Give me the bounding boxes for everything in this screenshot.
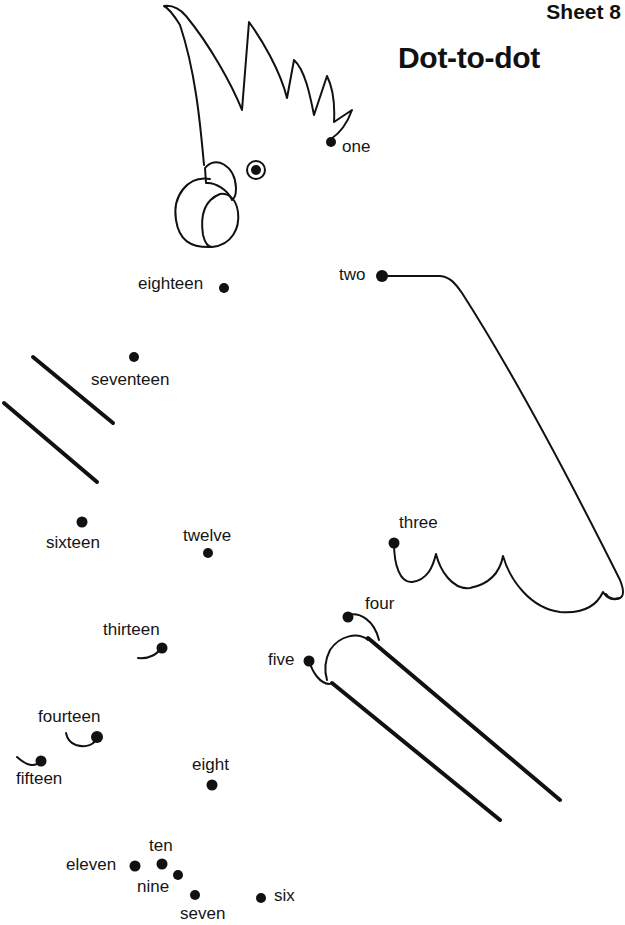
crest-outline xyxy=(164,6,352,165)
dot-12 xyxy=(203,548,213,558)
dot-label-five: five xyxy=(268,650,294,670)
tail-feather-2 xyxy=(332,683,500,820)
tail-feather-1 xyxy=(368,638,560,800)
dot-label-thirteen: thirteen xyxy=(103,620,160,640)
dot-15 xyxy=(36,756,47,767)
dot-9 xyxy=(173,870,183,880)
dot-label-fifteen: fifteen xyxy=(16,769,62,789)
wing-back xyxy=(384,276,623,599)
dot-10 xyxy=(157,859,168,870)
dot-7 xyxy=(190,890,200,900)
tail-cap-outer xyxy=(325,636,368,680)
dot-11 xyxy=(130,861,141,872)
wing-scallops xyxy=(394,543,620,612)
beak-lower xyxy=(175,179,238,248)
dot-label-six: six xyxy=(274,886,295,906)
dot-14 xyxy=(91,731,103,743)
dot-label-seventeen: seventeen xyxy=(91,370,169,390)
dot-6 xyxy=(256,893,266,903)
dot-3 xyxy=(389,538,400,549)
dot-2 xyxy=(376,270,388,282)
dot-label-seven: seven xyxy=(180,904,225,924)
dot-label-eight: eight xyxy=(192,755,229,775)
dot-label-four: four xyxy=(365,594,394,614)
dot-label-eighteen: eighteen xyxy=(138,274,203,294)
dot-label-three: three xyxy=(399,513,438,533)
dot-label-eleven: eleven xyxy=(66,855,116,875)
cockatoo-drawing xyxy=(0,0,625,925)
dot-label-nine: nine xyxy=(137,877,169,897)
dot-8 xyxy=(207,780,218,791)
dot-16 xyxy=(77,517,88,528)
dot-4 xyxy=(343,612,354,623)
feather-stroke-2 xyxy=(4,403,97,482)
dot-label-twelve: twelve xyxy=(183,526,231,546)
dot-label-fourteen: fourteen xyxy=(38,707,100,727)
eye-pupil xyxy=(251,165,261,175)
feather-stroke-1 xyxy=(33,357,113,423)
dot-5 xyxy=(304,656,315,667)
dot-1 xyxy=(326,137,336,147)
dot-18 xyxy=(219,283,229,293)
dot-17 xyxy=(129,352,139,362)
dot-label-one: one xyxy=(342,137,370,157)
dot-label-sixteen: sixteen xyxy=(46,533,100,553)
dot-label-two: two xyxy=(339,265,365,285)
dot-13 xyxy=(157,643,168,654)
dot-label-ten: ten xyxy=(149,836,173,856)
